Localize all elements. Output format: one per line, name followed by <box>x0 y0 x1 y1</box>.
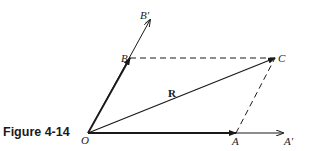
dashed-line-ac <box>236 58 275 133</box>
label-b-prime: B′ <box>140 9 150 21</box>
label-b: B <box>121 52 128 64</box>
label-a: A <box>231 135 239 147</box>
label-resultant-r: R <box>168 87 177 99</box>
vector-ob <box>88 58 130 133</box>
parallelogram-diagram: O A A′ B B′ C R <box>0 0 309 151</box>
vector-resultant-r <box>88 58 275 133</box>
label-o: O <box>81 134 89 146</box>
label-a-prime: A′ <box>283 135 294 147</box>
label-c: C <box>278 52 286 64</box>
